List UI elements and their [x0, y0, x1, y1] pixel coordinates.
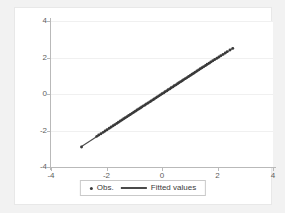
data-point: [80, 145, 83, 148]
dot-marker-icon: [90, 187, 93, 190]
legend-label-fitted: Fitted values: [151, 184, 196, 192]
data-point: [229, 49, 232, 52]
line-marker-icon: [121, 187, 147, 189]
observation-points: [80, 47, 234, 148]
x-tick-label: -2: [103, 172, 110, 180]
chart-figure: -4-2024 -4-2024 Obs. Fitted values: [0, 0, 285, 213]
chart-card: -4-2024 -4-2024 Obs. Fitted values: [14, 7, 272, 205]
data-layer: [51, 21, 273, 167]
data-point: [226, 50, 229, 53]
plot-region: -4-2024 -4-2024: [51, 21, 273, 167]
x-tick-label: 2: [215, 172, 219, 180]
y-tick-label: 2: [43, 54, 47, 62]
legend-entry-fitted: Fitted values: [121, 184, 196, 192]
y-tick-label: 0: [43, 90, 47, 98]
legend-label-obs: Obs.: [97, 184, 114, 192]
data-point: [231, 47, 234, 50]
x-tick-label: -4: [47, 172, 54, 180]
legend-entry-obs: Obs.: [90, 184, 114, 192]
y-tick-label: -4: [40, 163, 47, 171]
y-tick-label: -2: [40, 127, 47, 135]
y-tick-label: 4: [43, 17, 47, 25]
x-tick-label: 0: [160, 172, 164, 180]
x-tick-label: 4: [271, 172, 275, 180]
chart-legend: Obs. Fitted values: [80, 180, 206, 196]
